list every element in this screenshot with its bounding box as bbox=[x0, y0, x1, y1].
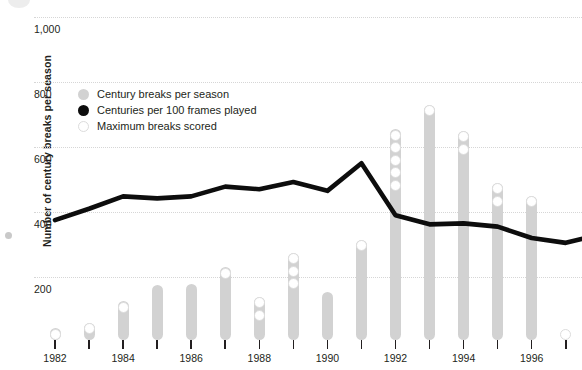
x-tick bbox=[463, 340, 465, 349]
x-tick-label: 1986 bbox=[180, 352, 203, 364]
x-tick bbox=[54, 340, 56, 349]
max-break-marker bbox=[118, 302, 129, 313]
line-swatch-icon bbox=[78, 105, 89, 116]
x-tick bbox=[156, 340, 158, 349]
chart-canvas: Number of century breaks per season 1,00… bbox=[0, 0, 582, 370]
decorative-ellipse bbox=[8, 0, 30, 8]
max-break-marker bbox=[254, 297, 265, 308]
x-tick bbox=[327, 340, 329, 349]
max-break-marker bbox=[288, 253, 299, 264]
legend-item-centuries-per-100-frames: Centuries per 100 frames played bbox=[78, 102, 257, 118]
x-tick-label: 1988 bbox=[248, 352, 271, 364]
plot-area: 1,000800600400200 1982198419861988199019… bbox=[34, 0, 582, 340]
legend-item-maximum-breaks: Maximum breaks scored bbox=[78, 118, 257, 134]
legend-label: Centuries per 100 frames played bbox=[97, 104, 257, 116]
x-tick bbox=[565, 340, 567, 349]
max-break-marker bbox=[492, 196, 503, 207]
x-tick bbox=[497, 340, 499, 349]
x-tick bbox=[259, 340, 261, 349]
max-break-marker bbox=[254, 310, 265, 321]
max-break-marker bbox=[458, 144, 469, 155]
max-break-marker bbox=[220, 268, 231, 279]
legend-label: Century breaks per season bbox=[97, 88, 229, 100]
max-break-marker bbox=[390, 180, 401, 191]
y-axis-bullet-icon bbox=[5, 232, 12, 239]
x-tick-label: 1990 bbox=[316, 352, 339, 364]
x-tick bbox=[395, 340, 397, 349]
line-series-centuries-per-100-frames bbox=[34, 0, 582, 340]
x-tick bbox=[293, 340, 295, 349]
legend-label: Maximum breaks scored bbox=[97, 120, 217, 132]
bar-swatch-icon bbox=[78, 89, 89, 100]
circle-swatch-icon bbox=[78, 121, 89, 132]
max-break-marker bbox=[356, 240, 367, 251]
x-tick bbox=[190, 340, 192, 349]
x-tick-label: 1992 bbox=[384, 352, 407, 364]
max-break-marker bbox=[560, 329, 571, 340]
max-break-marker bbox=[50, 329, 61, 340]
x-tick bbox=[429, 340, 431, 349]
x-tick-label: 1994 bbox=[452, 352, 475, 364]
x-tick-label: 1982 bbox=[43, 352, 66, 364]
x-tick bbox=[224, 340, 226, 349]
x-tick bbox=[531, 340, 533, 349]
max-break-marker bbox=[390, 155, 401, 166]
chart-legend: Century breaks per season Centuries per … bbox=[78, 86, 257, 134]
max-break-marker bbox=[288, 266, 299, 277]
x-tick bbox=[361, 340, 363, 349]
x-tick bbox=[88, 340, 90, 349]
max-break-marker bbox=[84, 323, 95, 334]
x-tick bbox=[122, 340, 124, 349]
max-break-marker bbox=[390, 130, 401, 141]
x-tick-label: 1984 bbox=[111, 352, 134, 364]
x-tick-label: 1996 bbox=[520, 352, 543, 364]
legend-item-century-breaks: Century breaks per season bbox=[78, 86, 257, 102]
